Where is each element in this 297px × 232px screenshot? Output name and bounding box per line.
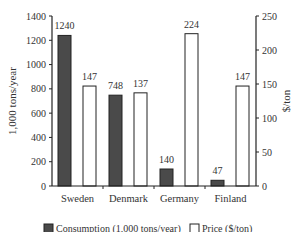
data-label: 1240 xyxy=(55,20,75,31)
left-tick-label: 1400 xyxy=(26,11,46,22)
data-label: 224 xyxy=(184,19,199,30)
category-label: Denmark xyxy=(109,193,149,204)
data-label: 47 xyxy=(213,165,223,176)
x-axis: SwedenDenmarkGermanyFinland xyxy=(52,186,256,204)
bar-consumption xyxy=(211,180,224,186)
data-label: 147 xyxy=(82,71,97,82)
left-tick-label: 1200 xyxy=(26,35,46,46)
data-label: 748 xyxy=(108,80,123,91)
right-tick-label: 150 xyxy=(262,79,277,90)
data-label: 140 xyxy=(159,154,174,165)
bar-chart: 0200400600800100012001400 05010015020025… xyxy=(0,0,297,232)
right-tick-label: 50 xyxy=(262,147,272,158)
left-tick-label: 200 xyxy=(31,156,46,167)
data-label: 137 xyxy=(133,78,148,89)
legend-label-consumption: Consumption (1,000 tons/year) xyxy=(56,223,181,232)
right-tick-label: 100 xyxy=(262,113,277,124)
data-label: 147 xyxy=(235,71,250,82)
left-tick-label: 600 xyxy=(31,108,46,119)
bar-consumption xyxy=(160,169,173,186)
right-tick-label: 200 xyxy=(262,45,277,56)
left-tick-label: 0 xyxy=(41,181,46,192)
left-tick-label: 1000 xyxy=(26,59,46,70)
left-tick-label: 400 xyxy=(31,132,46,143)
right-tick-label: 0 xyxy=(262,181,267,192)
legend-swatch-consumption xyxy=(44,224,53,232)
bar-price xyxy=(185,34,198,186)
right-y-axis: 050100150200250 xyxy=(256,11,277,192)
left-tick-label: 800 xyxy=(31,83,46,94)
bars: 124014774813714022447147 xyxy=(55,19,251,186)
right-tick-label: 250 xyxy=(262,11,277,22)
category-label: Germany xyxy=(160,193,200,204)
bar-price xyxy=(83,86,96,186)
bar-consumption xyxy=(109,95,122,186)
legend: Consumption (1,000 tons/year) Price ($/t… xyxy=(44,223,252,232)
left-axis-label: 1,000 tons/year xyxy=(6,67,18,135)
category-label: Sweden xyxy=(61,193,95,204)
legend-swatch-price xyxy=(190,224,199,232)
left-y-axis: 0200400600800100012001400 xyxy=(26,11,52,192)
right-axis-label: $/ton xyxy=(280,89,292,112)
category-label: Finland xyxy=(214,193,247,204)
legend-label-price: Price ($/ton) xyxy=(202,223,252,232)
bar-consumption xyxy=(58,35,71,186)
bar-price xyxy=(134,93,147,186)
bar-price xyxy=(236,86,249,186)
